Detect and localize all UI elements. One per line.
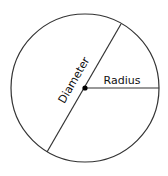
radius-label: Radius — [104, 74, 141, 87]
center-point — [82, 85, 87, 90]
diameter-label: Diameter — [55, 54, 92, 105]
circle-diagram: Diameter Radius — [0, 0, 168, 176]
